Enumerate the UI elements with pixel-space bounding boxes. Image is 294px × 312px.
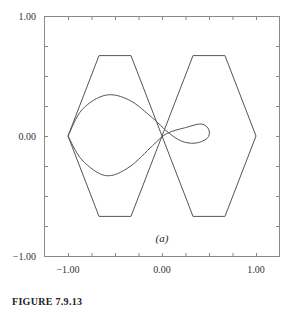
- svg-text:0.00: 0.00: [19, 131, 37, 142]
- svg-text:1.00: 1.00: [19, 11, 37, 22]
- subplot-label: (a): [80, 232, 244, 244]
- data-series: [68, 56, 256, 217]
- svg-text:1.00: 1.00: [247, 264, 265, 275]
- left-hexagon-line: [68, 56, 162, 217]
- chart: −1.000.001.00−1.000.001.00: [0, 0, 294, 312]
- figure-label: FIGURE 7.9.13: [12, 296, 82, 307]
- svg-text:−1.00: −1.00: [13, 251, 36, 262]
- figure-eight-curve-line: [68, 95, 209, 176]
- svg-text:0.00: 0.00: [153, 264, 171, 275]
- svg-text:−1.00: −1.00: [56, 264, 79, 275]
